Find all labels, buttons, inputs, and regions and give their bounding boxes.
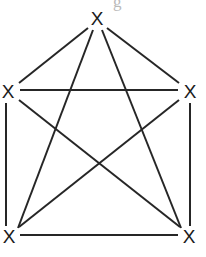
vertex-label-bottom-left: X bbox=[3, 227, 16, 246]
vertex-label-bottom-right: X bbox=[183, 227, 196, 246]
vertex-label-top: X bbox=[91, 9, 104, 28]
edge-group bbox=[6, 28, 190, 235]
graph-edges-canvas bbox=[0, 0, 206, 257]
complete-graph-figure: g XXXXX bbox=[0, 0, 206, 257]
vertex-label-left-middle: X bbox=[2, 82, 15, 101]
vertex-label-right-middle: X bbox=[184, 82, 197, 101]
graph-edge-top--right-middle bbox=[107, 28, 179, 83]
graph-edge-top--left-middle bbox=[19, 28, 88, 83]
